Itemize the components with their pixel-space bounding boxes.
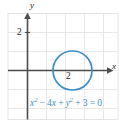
equation-caption: x2 − 4x + y2 + 3 = 0 xyxy=(30,99,102,109)
y-axis-tick-label-2: 2 xyxy=(17,28,22,38)
circle-center-label: 2 xyxy=(66,72,71,82)
equation-op-2: + xyxy=(56,98,66,108)
axis-label-x: x xyxy=(112,62,116,71)
equation-op-3: + xyxy=(73,98,83,108)
equation-op-1: − xyxy=(37,98,47,108)
equation-rhs-0: 0 xyxy=(97,98,102,108)
equation-equals: = xyxy=(87,98,97,108)
axis-label-y: y xyxy=(30,1,34,10)
graph-figure: y x 2 2 x2 − 4x + y2 + 3 = 0 xyxy=(0,0,120,120)
